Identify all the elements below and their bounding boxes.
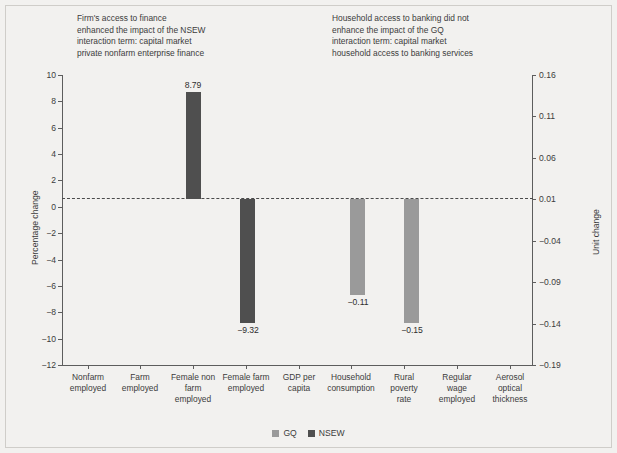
y-axis-left-line: [62, 75, 63, 366]
y-tick-label-right: −0.14: [539, 319, 561, 329]
x-tick-mark: [299, 365, 300, 369]
x-tick-mark: [193, 365, 194, 369]
x-axis-label: Household consumption: [323, 372, 379, 394]
y-tick-mark-left: [58, 154, 62, 155]
legend-item[interactable]: GQ: [272, 428, 296, 438]
chart-legend: GQNSEW: [0, 428, 617, 438]
y-tick-mark-right: [532, 324, 536, 325]
y-tick-label-left: 8: [34, 96, 56, 106]
y-tick-mark-left: [58, 260, 62, 261]
y-tick-label-right: 0.01: [539, 194, 556, 204]
legend-swatch: [272, 430, 279, 437]
chart-figure: Firm's access to finance enhanced the im…: [0, 0, 617, 453]
y-tick-mark-right: [532, 241, 536, 242]
y-tick-label-left: −6: [34, 281, 56, 291]
bar-value-label: −0.15: [401, 325, 423, 335]
y-tick-mark-right: [532, 158, 536, 159]
x-tick-mark: [457, 365, 458, 369]
y-tick-mark-right: [532, 282, 536, 283]
y-tick-label-right: 0.11: [539, 111, 555, 121]
x-axis-label: Rural poverty rate: [376, 372, 432, 404]
annotation-gq-household-banking: Household access to banking did not enha…: [332, 13, 473, 59]
annotation-nsew-firm-finance: Firm's access to finance enhanced the im…: [77, 13, 206, 59]
bar[interactable]: [240, 199, 255, 323]
y-tick-mark-left: [58, 128, 62, 129]
x-tick-mark: [246, 365, 247, 369]
x-tick-mark: [140, 365, 141, 369]
y-axis-right-title: Unit change: [591, 209, 601, 255]
bar-value-label: −9.32: [237, 325, 259, 335]
y-axis-right-line: [532, 75, 533, 366]
x-axis-label: Regular wage employed: [429, 372, 485, 404]
legend-label: NSEW: [319, 428, 345, 438]
y-tick-mark-left: [58, 180, 62, 181]
bar[interactable]: [186, 92, 201, 199]
y-tick-label-left: 6: [34, 123, 56, 133]
bar[interactable]: [350, 199, 365, 295]
bar[interactable]: [404, 199, 419, 323]
x-axis-label: Nonfarm employed: [60, 372, 116, 394]
y-tick-label-right: 0.06: [539, 153, 556, 163]
y-tick-label-left: 10: [34, 70, 56, 80]
y-tick-mark-right: [532, 199, 536, 200]
y-tick-label-left: −10: [34, 334, 56, 344]
y-tick-mark-right: [532, 75, 536, 76]
x-axis-label: Farm employed: [112, 372, 168, 394]
y-tick-mark-right: [532, 365, 536, 366]
x-axis-label: Aerosol optical thickness: [482, 372, 538, 404]
x-tick-mark: [510, 365, 511, 369]
y-tick-label-left: −8: [34, 307, 56, 317]
y-tick-mark-right: [532, 116, 536, 117]
x-tick-mark: [404, 365, 405, 369]
x-axis-label: Female farm employed: [218, 372, 274, 394]
y-tick-label-left: 2: [34, 175, 56, 185]
x-axis-line: [62, 365, 533, 366]
bar-value-label: 8.79: [185, 80, 202, 90]
y-tick-mark-left: [58, 365, 62, 366]
y-tick-mark-left: [58, 101, 62, 102]
legend-label: GQ: [283, 428, 296, 438]
y-tick-mark-left: [58, 207, 62, 208]
bar-value-label: −0.11: [347, 297, 368, 307]
y-tick-label-right: −0.09: [539, 277, 561, 287]
y-tick-mark-left: [58, 286, 62, 287]
x-tick-mark: [351, 365, 352, 369]
y-tick-label-left: 4: [34, 149, 56, 159]
zero-reference-line: [62, 198, 533, 199]
x-tick-mark: [88, 365, 89, 369]
y-tick-mark-left: [58, 312, 62, 313]
y-tick-mark-left: [58, 339, 62, 340]
y-tick-label-left: −12: [34, 360, 56, 370]
legend-item[interactable]: NSEW: [308, 428, 345, 438]
y-tick-mark-left: [58, 233, 62, 234]
y-tick-label-right: −0.04: [539, 236, 561, 246]
y-axis-left-title: Percentage change: [30, 190, 40, 265]
legend-swatch: [308, 430, 315, 437]
y-tick-label-right: −0.19: [539, 360, 561, 370]
y-tick-label-right: 0.16: [539, 70, 556, 80]
y-tick-mark-left: [58, 75, 62, 76]
x-axis-label: GDP per capita: [271, 372, 327, 394]
x-axis-label: Female non farm employed: [165, 372, 221, 404]
